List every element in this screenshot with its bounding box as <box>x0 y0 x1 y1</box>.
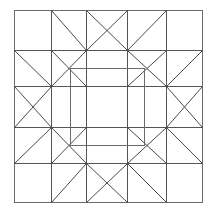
corner-cell-top-right <box>167 11 202 50</box>
corner-cell-bottom-right <box>167 164 202 202</box>
corner-cell-top-left <box>15 11 51 50</box>
quilt-block-diagram: Quilt Block Pattern <box>0 0 215 214</box>
corner-cell-bottom-left <box>15 164 51 202</box>
